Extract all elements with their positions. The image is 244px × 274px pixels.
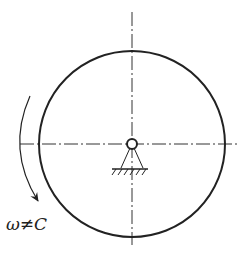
angular-velocity-label: ω≠C xyxy=(6,214,47,234)
rotation-arrow-icon xyxy=(20,96,38,201)
pivot-joint-icon xyxy=(127,139,137,149)
diagram-canvas: ω≠C xyxy=(0,0,244,274)
fixed-support-icon xyxy=(112,148,148,175)
